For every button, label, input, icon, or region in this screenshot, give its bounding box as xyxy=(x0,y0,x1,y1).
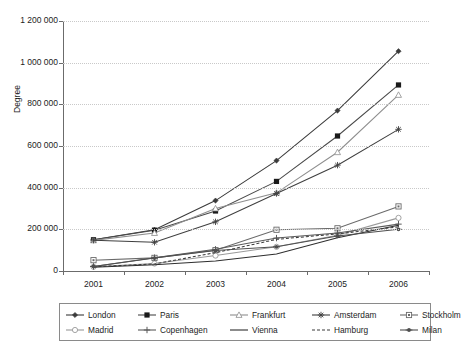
x-axis-tick-mark xyxy=(307,271,308,275)
data-point-marker xyxy=(212,219,218,225)
series-vienna xyxy=(94,225,399,267)
x-axis-tick-mark xyxy=(185,271,186,275)
chart-legend: LondonParisFrankfurtAmsterdamStockholm M… xyxy=(59,303,431,341)
y-axis-tick-label: 0 xyxy=(53,266,58,275)
x-axis-tick-label: 2004 xyxy=(254,279,300,289)
gridline xyxy=(63,188,429,189)
data-point-marker xyxy=(144,312,149,317)
legend-label: Copenhagen xyxy=(158,324,208,336)
legend-item-madrid[interactable]: Madrid xyxy=(64,322,136,337)
data-point-marker xyxy=(396,215,401,220)
x-axis-tick-mark xyxy=(124,271,125,275)
data-point-marker xyxy=(395,221,401,227)
series-milan xyxy=(90,227,402,268)
legend-symbol-london xyxy=(64,309,86,321)
legend-label: Milan xyxy=(420,324,442,336)
data-point-marker xyxy=(72,312,77,317)
gridline xyxy=(63,63,429,64)
x-axis-tick-mark xyxy=(429,271,430,275)
x-axis-tick-label: 2005 xyxy=(315,279,361,289)
series-amsterdam xyxy=(90,126,401,245)
plot-area xyxy=(63,21,429,271)
legend-item-hamburg[interactable]: Hamburg xyxy=(310,322,398,337)
y-axis-tick-mark xyxy=(59,21,63,22)
data-point-marker xyxy=(151,239,157,245)
series-line xyxy=(94,206,399,260)
legend-symbol-paris xyxy=(136,309,158,321)
y-axis-tick-label: 800 000 xyxy=(27,99,58,108)
legend-label: London xyxy=(86,309,116,321)
y-axis-tick-mark xyxy=(59,104,63,105)
legend-symbol-milan xyxy=(398,324,420,336)
y-axis-tick-mark xyxy=(59,63,63,64)
legend-label: Stockholm xyxy=(420,309,461,321)
y-axis-tick-mark xyxy=(59,188,63,189)
legend-item-copenhagen[interactable]: Copenhagen xyxy=(136,322,228,337)
series-line xyxy=(94,95,399,240)
legend-symbol-vienna xyxy=(228,324,250,336)
legend-label: Frankfurt xyxy=(250,309,285,321)
x-axis-tick-mark xyxy=(246,271,247,275)
y-axis-tick-mark xyxy=(59,229,63,230)
data-point-marker xyxy=(318,311,324,317)
y-axis-tick-label: 400 000 xyxy=(27,183,58,192)
data-point-marker xyxy=(334,162,340,168)
y-axis-tick-label: 200 000 xyxy=(27,224,58,233)
data-point-marker xyxy=(395,126,401,132)
legend-item-vienna[interactable]: Vienna xyxy=(228,322,310,337)
data-point-marker xyxy=(335,133,340,138)
legend-item-london[interactable]: London xyxy=(64,307,136,322)
legend-row: MadridCopenhagenViennaHamburgMilan xyxy=(64,322,426,337)
data-point-marker xyxy=(396,92,402,98)
legend-symbol-copenhagen xyxy=(136,324,158,336)
series-madrid xyxy=(91,215,401,269)
gridline xyxy=(63,146,429,147)
x-axis-tick-mark xyxy=(63,271,64,275)
legend-item-frankfurt[interactable]: Frankfurt xyxy=(228,307,310,322)
data-point-marker xyxy=(144,326,150,332)
series-paris xyxy=(91,82,401,242)
data-point-marker xyxy=(213,253,218,258)
data-point-marker xyxy=(72,327,77,332)
legend-label: Amsterdam xyxy=(332,309,376,321)
series-frankfurt xyxy=(91,92,402,243)
y-axis-tick-mark xyxy=(59,146,63,147)
x-axis-tick-label: 2001 xyxy=(71,279,117,289)
gridline xyxy=(63,229,429,230)
y-axis-tick-label: 600 000 xyxy=(27,141,58,150)
data-point-marker xyxy=(91,258,96,263)
y-axis-tick-label: 1 200 000 xyxy=(20,16,58,25)
x-axis-tick-label: 2002 xyxy=(132,279,178,289)
y-axis-tick-label: 1 000 000 xyxy=(20,58,58,67)
legend-symbol-madrid xyxy=(64,324,86,336)
y-axis-tick-mark xyxy=(59,271,63,272)
data-point-marker xyxy=(406,312,411,317)
data-point-marker xyxy=(406,328,413,332)
legend-item-paris[interactable]: Paris xyxy=(136,307,228,322)
legend-symbol-hamburg xyxy=(310,324,332,336)
series-copenhagen xyxy=(90,221,401,270)
legend-symbol-stockholm xyxy=(398,309,420,321)
legend-label: Hamburg xyxy=(332,324,368,336)
data-point-marker xyxy=(273,235,279,241)
data-point-marker xyxy=(90,237,96,243)
legend-symbol-frankfurt xyxy=(228,309,250,321)
x-axis-tick-mark xyxy=(368,271,369,275)
data-point-marker xyxy=(396,204,401,209)
x-axis-tick-label: 2006 xyxy=(376,279,422,289)
gridline xyxy=(63,21,429,22)
x-axis-tick-label: 2003 xyxy=(193,279,239,289)
legend-item-amsterdam[interactable]: Amsterdam xyxy=(310,307,398,322)
data-point-marker xyxy=(274,179,279,184)
data-point-marker xyxy=(396,82,401,87)
series-line xyxy=(94,225,399,267)
legend-label: Vienna xyxy=(250,324,278,336)
legend-label: Madrid xyxy=(86,324,113,336)
y-axis-tick-labels: 0200 000400 000600 000800 0001 000 0001 … xyxy=(0,0,58,290)
data-point-marker xyxy=(273,190,279,196)
gridline xyxy=(63,104,429,105)
series-line xyxy=(94,85,399,240)
legend-row: LondonParisFrankfurtAmsterdamStockholm xyxy=(64,307,426,322)
legend-label: Paris xyxy=(158,309,179,321)
